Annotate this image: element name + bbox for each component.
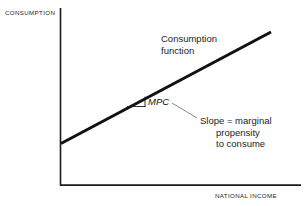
consumption-function-label: Consumption function — [161, 33, 217, 56]
slope-callout-label: Slope = marginal propensity to consume — [200, 115, 272, 150]
slope-callout-line3: to consume — [200, 138, 272, 150]
consumption-function-diagram: CONSUMPTION NATIONAL INCOME Consumption … — [0, 0, 308, 206]
slope-callout-line2: propensity — [200, 127, 272, 139]
consumption-function-label-line1: Consumption — [161, 33, 217, 45]
y-axis-title: CONSUMPTION — [5, 7, 55, 18]
slope-callout-line1: Slope = marginal — [200, 115, 272, 127]
consumption-function-label-line2: function — [161, 45, 217, 57]
mpc-label: MPC — [148, 96, 169, 107]
x-axis-title: NATIONAL INCOME — [215, 190, 277, 201]
slope-callout-leader-line — [172, 103, 197, 118]
